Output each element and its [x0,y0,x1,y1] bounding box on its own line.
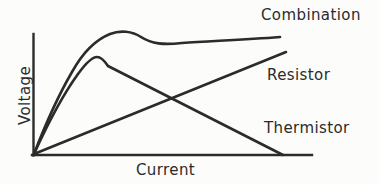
series-label-combination: Combination [261,8,361,23]
y-axis-label: Voltage [18,61,33,131]
plot-area [0,0,380,184]
series-label-thermistor: Thermistor [264,121,350,136]
series-label-resistor: Resistor [267,68,330,83]
x-axis-label: Current [136,163,195,178]
voltage-current-characteristic-figure: Combination Resistor Thermistor Current … [0,0,380,184]
